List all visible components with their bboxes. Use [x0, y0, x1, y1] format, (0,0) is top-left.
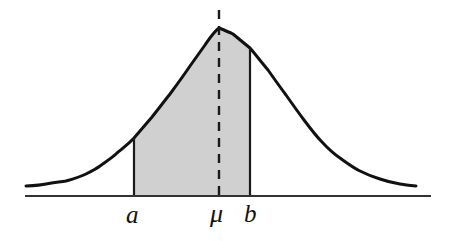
axis-label-mu: μ: [210, 201, 223, 227]
axis-label-a: a: [126, 202, 139, 227]
shaded-area-between-a-and-b: [134, 28, 250, 196]
axis-label-b: b: [244, 201, 257, 226]
normal-distribution-chart: [0, 0, 454, 241]
normal-distribution-figure: a μ b: [0, 0, 454, 241]
